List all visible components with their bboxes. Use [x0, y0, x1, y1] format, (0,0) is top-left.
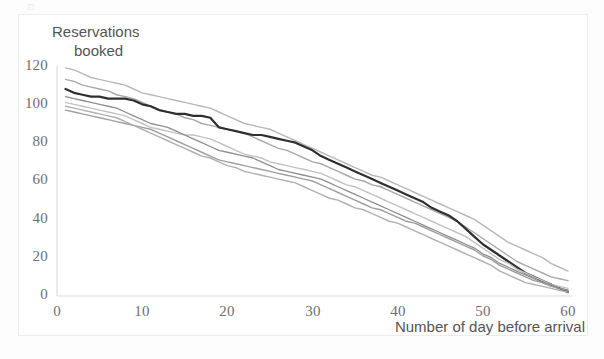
x-tick-label: 0	[37, 303, 77, 320]
chart-figure: □ 120 100 80 60 40 20 0 0 10 20 30 40 50…	[0, 0, 604, 359]
y-tick-label: 0	[10, 286, 48, 303]
y-tick-label: 80	[10, 133, 48, 150]
y-tick-label: 120	[10, 57, 48, 74]
x-tick-label: 10	[122, 303, 162, 320]
chart-title-line-1: Reservations	[52, 22, 222, 41]
chart-title: Reservations booked	[52, 22, 222, 60]
y-tick-label: 60	[10, 171, 48, 188]
x-axis-title: Number of day before arrival	[330, 318, 585, 335]
chart-title-line-2: booked	[52, 41, 222, 60]
x-tick-label: 20	[207, 303, 247, 320]
series-group	[66, 68, 568, 292]
series-line	[66, 110, 568, 290]
y-tick-label: 40	[10, 210, 48, 227]
x-tick-label: 30	[293, 303, 333, 320]
series-line	[66, 106, 568, 292]
y-tick-label: 20	[10, 248, 48, 265]
y-tick-label: 100	[10, 95, 48, 112]
series-line	[66, 68, 568, 271]
